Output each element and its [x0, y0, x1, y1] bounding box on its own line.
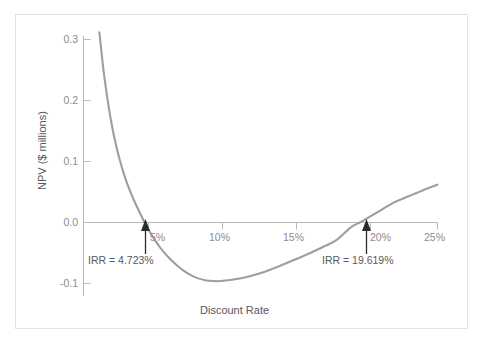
y-tick-label--0.1: -0.1 [40, 277, 78, 289]
y-axis-title: NPV ($ millions) [36, 111, 48, 190]
npv-curve [99, 32, 437, 281]
annotation-irr-low: IRR = 4.723% [88, 254, 154, 266]
x-tick-label-25pct: 25% [424, 231, 445, 243]
x-tick-label-5pct: 5% [150, 231, 165, 243]
x-tick-label-20pct: 20% [370, 231, 391, 243]
chart-figure: 0.3 0.2 0.1 0.0 -0.1 5% 10% 15% 20% 25% … [0, 0, 483, 344]
y-tick-marks [84, 40, 91, 284]
x-tick-label-15pct: 15% [283, 231, 304, 243]
x-axis-title: Discount Rate [200, 304, 269, 316]
npv-profile-plot [0, 0, 483, 344]
y-tick-label-0.2: 0.2 [44, 94, 78, 106]
annotation-irr-high: IRR = 19.619% [322, 254, 394, 266]
x-tick-marks [149, 223, 438, 230]
y-tick-label-0.3: 0.3 [44, 33, 78, 45]
y-tick-label-0.1: 0.1 [44, 155, 78, 167]
y-tick-label-0.0: 0.0 [44, 216, 78, 228]
x-tick-label-10pct: 10% [209, 231, 230, 243]
